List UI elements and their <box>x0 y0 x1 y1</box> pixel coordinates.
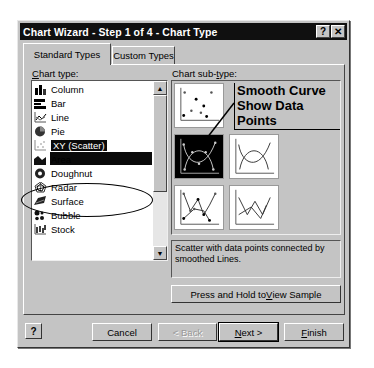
help-title-button[interactable]: ? <box>316 25 330 38</box>
subtype-scatter-smooth-no-markers[interactable] <box>229 134 279 179</box>
title-bar[interactable]: Chart Wizard - Step 1 of 4 - Chart Type … <box>20 23 347 40</box>
scroll-down-button[interactable]: ▼ <box>153 246 167 260</box>
chart-subtype-label: Chart sub-type: <box>172 68 237 79</box>
arrow-up-icon: ▲ <box>157 85 164 92</box>
bar-chart-icon <box>34 98 47 109</box>
view-sample-button[interactable]: Press and Hold to View Sample <box>171 285 341 303</box>
chart-wizard-dialog: Chart Wizard - Step 1 of 4 - Chart Type … <box>17 20 350 348</box>
subtype-scatter-markers-only[interactable] <box>174 83 224 128</box>
scroll-thumb[interactable] <box>153 95 167 192</box>
radar-chart-icon <box>34 182 47 193</box>
tab-label: Custom Types <box>113 50 174 61</box>
close-icon: ✕ <box>334 27 342 37</box>
column-chart-icon <box>34 84 47 95</box>
cancel-button[interactable]: Cancel <box>92 323 152 341</box>
next-button[interactable]: Next > <box>219 323 278 341</box>
tab-label: Standard Types <box>34 49 100 60</box>
close-button[interactable]: ✕ <box>331 25 345 38</box>
back-button[interactable]: < Back <box>158 323 217 341</box>
list-item-bubble[interactable]: Bubble <box>32 208 152 222</box>
stock-chart-icon <box>34 224 47 235</box>
subtype-description: Scatter with data points connected by sm… <box>171 240 341 278</box>
list-item-surface[interactable]: Surface <box>32 194 152 208</box>
annotation-line-1: Smooth Curve <box>237 83 340 98</box>
list-item-stock[interactable]: Stock <box>32 222 152 236</box>
subtype-scatter-smooth-markers[interactable] <box>174 134 224 179</box>
help-button[interactable]: ? <box>25 323 42 339</box>
subtype-scatter-lines-markers[interactable] <box>174 185 224 230</box>
standard-types-panel: Chart type: Column Bar Line Pie <box>23 64 345 315</box>
window-title: Chart Wizard - Step 1 of 4 - Chart Type <box>23 26 217 38</box>
annotation-callout: Smooth Curve Show Data Points <box>234 83 340 130</box>
pie-chart-icon <box>34 126 47 137</box>
help-icon: ? <box>30 326 36 337</box>
chart-type-scrollbar[interactable]: ▲ ▼ <box>153 81 167 260</box>
list-item-line[interactable]: Line <box>32 110 152 124</box>
area-chart-icon <box>34 154 47 165</box>
line-chart-icon <box>34 112 47 123</box>
list-item-column[interactable]: Column <box>32 82 152 96</box>
list-item-bar[interactable]: Bar <box>32 96 152 110</box>
surface-chart-icon <box>34 196 47 207</box>
list-item-area[interactable]: Area <box>32 152 152 166</box>
tab-custom-types[interactable]: Custom Types <box>112 46 175 64</box>
scroll-up-button[interactable]: ▲ <box>153 81 167 95</box>
chart-subtype-grid: Smooth Curve Show Data Points <box>171 80 341 235</box>
finish-button[interactable]: Finish <box>284 323 344 341</box>
subtype-scatter-lines-no-markers[interactable] <box>229 185 279 230</box>
chart-type-listbox[interactable]: Column Bar Line Pie XY (Scatter) <box>31 80 168 261</box>
tab-standard-types[interactable]: Standard Types <box>23 43 111 65</box>
list-item-doughnut[interactable]: Doughnut <box>32 166 152 180</box>
list-item-xy-scatter[interactable]: XY (Scatter) <box>32 138 152 152</box>
chart-type-label: Chart type: <box>32 68 78 79</box>
bubble-chart-icon <box>34 210 47 221</box>
arrow-down-icon: ▼ <box>157 250 164 257</box>
question-icon: ? <box>320 27 326 37</box>
doughnut-chart-icon <box>34 168 47 179</box>
scatter-chart-icon <box>34 140 47 151</box>
list-item-pie[interactable]: Pie <box>32 124 152 138</box>
list-item-radar[interactable]: Radar <box>32 180 152 194</box>
annotation-line-2: Show Data Points <box>237 98 340 128</box>
